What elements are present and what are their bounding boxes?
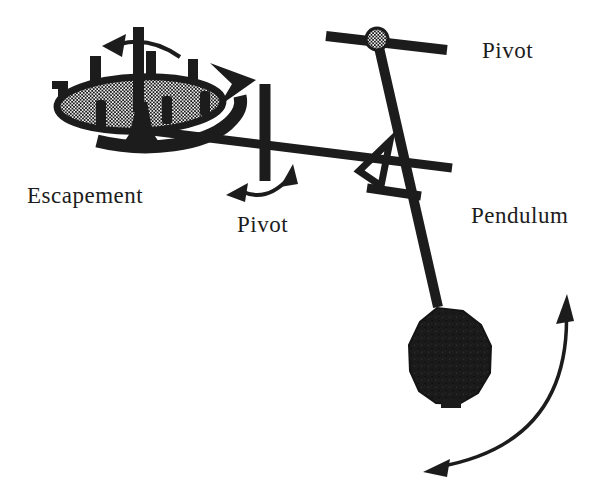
pivot-oscillation-arrow — [241, 179, 288, 195]
pendulum-label: Pendulum — [471, 203, 568, 229]
wheel-tooth — [96, 100, 106, 128]
pivot-top-label: Pivot — [482, 38, 533, 64]
wheel-axle — [133, 27, 144, 112]
pivot-bearing-icon — [366, 28, 388, 50]
wheel-tooth — [162, 96, 172, 124]
pendulum-bob — [409, 308, 491, 404]
wheel-tooth — [200, 91, 210, 116]
pivot-middle-label: Pivot — [237, 212, 288, 238]
suspension-triangle — [359, 141, 390, 186]
escapement-label: Escapement — [27, 183, 143, 209]
swing-arc-arrowhead-top-icon — [556, 294, 574, 324]
swing-arc-arrowhead-bottom-icon — [423, 459, 450, 477]
diagram-canvas — [0, 0, 603, 496]
escapement-pendulum-diagram: Escapement Pivot Pivot Pendulum — [0, 0, 603, 496]
pivot-oscillation-arrowhead-left-icon — [226, 183, 248, 202]
pendulum-bob-nub — [441, 400, 461, 408]
pendulum-rod — [378, 43, 438, 307]
pivot-oscillation-arrowhead-right-icon — [280, 164, 298, 187]
wheel-counter-arrowhead-icon — [102, 34, 126, 57]
